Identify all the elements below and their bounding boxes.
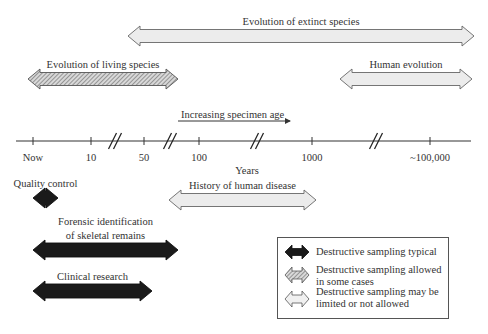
range-arrow-clinical — [33, 281, 152, 301]
range-arrow-human-evolution — [340, 69, 472, 89]
legend-label: limited or not allowed — [316, 298, 409, 310]
range-label-human-evolution: Human evolution — [369, 59, 442, 71]
range-arrow-living — [28, 69, 178, 89]
range-arrow-extinct — [128, 26, 474, 46]
range-label-human-disease: History of human disease — [189, 180, 296, 192]
range-label-extinct: Evolution of extinct species — [243, 16, 360, 28]
range-label-forensic: of skeletal remains — [66, 230, 145, 242]
legend-label: Destructive sampling may be — [316, 286, 439, 298]
range-label-living: Evolution of living species — [47, 59, 160, 71]
axis-tick-label: 100 — [191, 152, 207, 164]
axis-tick-label: ~100,000 — [410, 152, 450, 164]
axis-title: Years — [235, 165, 258, 177]
specimen-age-label: Increasing specimen age — [181, 109, 284, 121]
range-arrow-forensic — [33, 240, 178, 260]
double-arrow-black-icon — [284, 244, 310, 260]
legend-label: Destructive sampling typical — [316, 246, 437, 258]
range-label-clinical: Clinical research — [57, 271, 128, 283]
axis-tick-label: 1000 — [302, 152, 323, 164]
double-arrow-hatched-icon — [284, 266, 310, 284]
axis-tick-label: Now — [23, 152, 43, 164]
range-arrow-quality-control — [33, 188, 58, 208]
range-arrow-human-disease — [169, 190, 316, 210]
double-arrow-open-icon — [284, 290, 310, 308]
axis-tick-label: 50 — [139, 152, 150, 164]
legend: Destructive sampling typical Destructive… — [277, 237, 449, 319]
axis-tick-label: 10 — [86, 152, 97, 164]
timeline-axis — [16, 121, 471, 149]
range-label-quality-control: Quality control — [14, 178, 78, 190]
range-label-forensic: Forensic identification — [58, 216, 153, 228]
legend-label: Destructive sampling allowed — [316, 264, 441, 276]
